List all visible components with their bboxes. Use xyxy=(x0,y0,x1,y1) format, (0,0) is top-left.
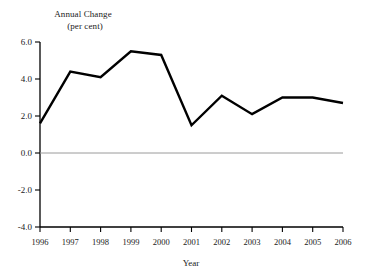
x-tick-label-1999: 1999 xyxy=(114,238,148,247)
y-tick-label-2: 2.0 xyxy=(6,112,32,121)
x-tick-label-2002: 2002 xyxy=(205,238,239,247)
x-tick-label-2003: 2003 xyxy=(235,238,269,247)
y-tick-label-minus4: -4.0 xyxy=(6,223,32,232)
x-tick-label-1998: 1998 xyxy=(84,238,118,247)
x-tick-label-2000: 2000 xyxy=(144,238,178,247)
y-tick-label-0: 0.0 xyxy=(6,149,32,158)
y-tick-label-4: 4.0 xyxy=(6,75,32,84)
line-chart: Annual Change (per cent) xyxy=(0,0,365,280)
y-axis-ticks xyxy=(35,42,40,227)
y-tick-label-minus2: -2.0 xyxy=(6,186,32,195)
x-tick-label-2001: 2001 xyxy=(175,238,209,247)
x-tick-label-2005: 2005 xyxy=(296,238,330,247)
x-tick-label-1997: 1997 xyxy=(53,238,87,247)
x-axis-title: Year xyxy=(161,258,221,268)
data-series-line xyxy=(40,51,343,125)
axis-lines xyxy=(40,42,343,227)
x-tick-label-2006: 2006 xyxy=(326,238,360,247)
x-tick-label-1996: 1996 xyxy=(23,238,57,247)
x-tick-label-2004: 2004 xyxy=(265,238,299,247)
x-axis-ticks xyxy=(40,227,343,232)
y-tick-label-6: 6.0 xyxy=(6,38,32,47)
